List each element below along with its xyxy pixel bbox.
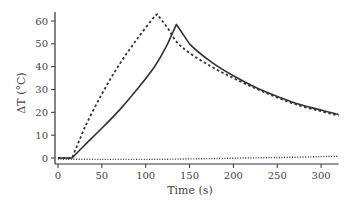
y-tick-label: 60 [35, 16, 48, 27]
line-chart: 0102030405060050100150200250300 Time (s)… [0, 0, 357, 205]
y-tick-label: 30 [35, 84, 48, 95]
y-axis-label: ΔT (°C) [15, 72, 28, 113]
x-tick-label: 150 [180, 170, 199, 181]
x-tick-label: 50 [95, 170, 108, 181]
x-tick-label: 250 [268, 170, 287, 181]
x-tick-label: 200 [224, 170, 243, 181]
series-group [58, 14, 339, 159]
series-dotted-line [58, 156, 339, 159]
x-tick-label: 0 [55, 170, 61, 181]
y-tick-label: 0 [42, 153, 48, 164]
series-dashed-line [58, 14, 339, 158]
x-tick-label: 300 [312, 170, 331, 181]
y-tick-label: 50 [35, 38, 48, 49]
series-solid-line [58, 24, 339, 158]
axes: 0102030405060050100150200250300 [35, 12, 338, 181]
y-tick-label: 40 [35, 61, 48, 72]
x-tick-label: 100 [136, 170, 155, 181]
y-tick-label: 10 [35, 130, 48, 141]
y-tick-label: 20 [35, 107, 48, 118]
x-axis-label: Time (s) [167, 184, 213, 197]
